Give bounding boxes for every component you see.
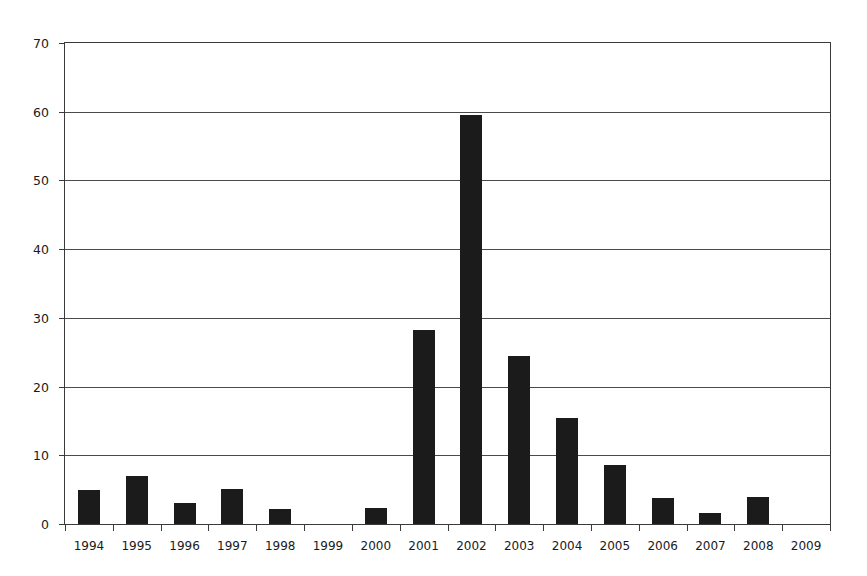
bar-slot: [782, 43, 830, 524]
x-tick: [256, 524, 257, 531]
x-tick-label-2009: 2009: [791, 540, 822, 552]
bar-slot: [256, 43, 304, 524]
x-tick-label-2006: 2006: [647, 540, 678, 552]
bar-1998: [269, 509, 291, 524]
bar-slot: [113, 43, 161, 524]
bar-1997: [221, 489, 243, 524]
bar-slot: [734, 43, 782, 524]
bar-slot: [304, 43, 352, 524]
x-tick: [161, 524, 162, 531]
x-tick: [65, 524, 66, 531]
bar-2004: [556, 418, 578, 524]
y-tick-label: 0: [41, 519, 49, 532]
x-tick: [304, 524, 305, 531]
x-tick-label-2002: 2002: [456, 540, 487, 552]
x-tick-label-2004: 2004: [552, 540, 583, 552]
x-tick-label-1998: 1998: [265, 540, 296, 552]
bar-slot: [687, 43, 735, 524]
x-tick-label-1994: 1994: [74, 540, 105, 552]
bar-2003: [508, 356, 530, 524]
bar-slot: [352, 43, 400, 524]
bar-slot: [161, 43, 209, 524]
x-tick: [543, 524, 544, 531]
bar-slot: [208, 43, 256, 524]
y-tick-label: 30: [33, 313, 49, 326]
bar-2002: [460, 115, 482, 524]
bar-1996: [174, 503, 196, 524]
y-tick-label: 50: [33, 175, 49, 188]
x-tick-label-2005: 2005: [600, 540, 631, 552]
x-tick: [495, 524, 496, 531]
x-tick-label-2003: 2003: [504, 540, 535, 552]
x-tick: [400, 524, 401, 531]
y-tick-label: 70: [33, 38, 49, 51]
bar-slot: [65, 43, 113, 524]
x-tick-label-1995: 1995: [121, 540, 152, 552]
bar-slot: [448, 43, 496, 524]
bar-slot: [591, 43, 639, 524]
x-tick: [208, 524, 209, 531]
plot-area: 010203040506070 199419951996199719981999…: [64, 42, 831, 525]
bar-2001: [413, 330, 435, 524]
bar-slot: [400, 43, 448, 524]
bar-slot: [639, 43, 687, 524]
bar-1994: [78, 490, 100, 524]
x-tick: [687, 524, 688, 531]
x-tick-label-2008: 2008: [743, 540, 774, 552]
y-tick-label: 60: [33, 106, 49, 119]
x-tick: [830, 524, 831, 531]
bar-slot: [543, 43, 591, 524]
bar-2007: [699, 513, 721, 524]
bar-2008: [747, 497, 769, 524]
bar-2006: [652, 498, 674, 524]
bar-1995: [126, 476, 148, 524]
y-tick-label: 40: [33, 244, 49, 257]
x-tick-label-2007: 2007: [695, 540, 726, 552]
x-tick-label-1999: 1999: [313, 540, 344, 552]
x-tick-label-1997: 1997: [217, 540, 248, 552]
x-tick: [448, 524, 449, 531]
x-tick-label-1996: 1996: [169, 540, 200, 552]
x-tick: [352, 524, 353, 531]
bars-layer: [65, 43, 830, 524]
x-tick: [639, 524, 640, 531]
bar-2000: [365, 508, 387, 524]
bar-2005: [604, 465, 626, 524]
bar-slot: [495, 43, 543, 524]
y-tick-label: 20: [33, 381, 49, 394]
x-tick-label-2000: 2000: [361, 540, 392, 552]
x-tick: [591, 524, 592, 531]
x-tick: [113, 524, 114, 531]
bar-chart: 010203040506070 199419951996199719981999…: [0, 0, 867, 576]
x-tick: [734, 524, 735, 531]
x-tick-label-2001: 2001: [408, 540, 439, 552]
y-tick-label: 10: [33, 450, 49, 463]
x-tick: [782, 524, 783, 531]
